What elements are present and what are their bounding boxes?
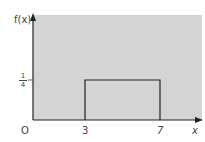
y-axis-label: f(x) [14, 15, 31, 25]
origin-label: O [21, 126, 29, 136]
x-tick-label-3: 3 [82, 126, 88, 136]
x-axis-label: x [192, 126, 198, 136]
y-tick-label-denominator: 4 [19, 82, 27, 89]
x-tick-label-7: 7 [157, 126, 163, 136]
plot-background [33, 15, 202, 120]
y-tick-label-numerator: 1 [19, 73, 27, 80]
